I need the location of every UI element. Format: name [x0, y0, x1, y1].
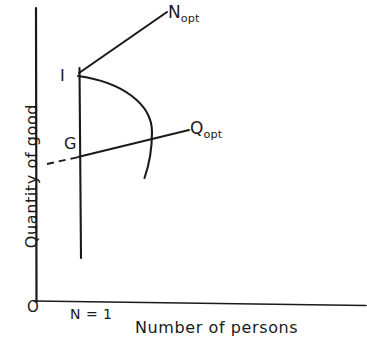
point-g-label: G [64, 136, 76, 152]
q-opt-label-base: Q [190, 118, 203, 138]
n-opt-label-base: N [168, 2, 181, 22]
n-opt-locus-line [79, 12, 167, 73]
q-opt-label: Qopt [190, 120, 222, 141]
n-opt-label: Nopt [168, 4, 200, 25]
n-opt-label-subscript: opt [181, 12, 200, 25]
n-equals-one-line [80, 68, 82, 258]
x-axis-tick-label-n-equals-1: N = 1 [70, 307, 113, 321]
q-opt-locus-line [78, 130, 189, 157]
indifference-arc [78, 76, 152, 178]
q-opt-locus-dashed-extension [47, 157, 79, 164]
diagram-canvas [0, 0, 367, 344]
figure-container: Nopt Qopt I G O N = 1 Number of persons … [0, 0, 367, 344]
point-i-label: I [60, 68, 65, 84]
x-axis-title: Number of persons [135, 320, 298, 336]
x-axis-line [34, 301, 366, 306]
y-axis-title: Quantity of good [24, 96, 40, 256]
q-opt-label-subscript: opt [203, 128, 222, 141]
origin-label: O [27, 300, 39, 315]
